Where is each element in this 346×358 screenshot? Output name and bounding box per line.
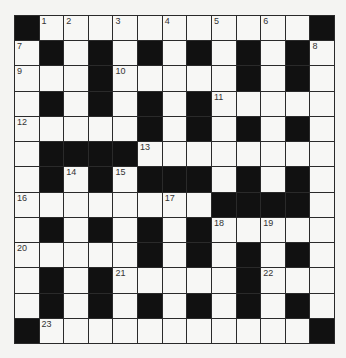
- answer-cell[interactable]: [64, 66, 88, 90]
- answer-cell[interactable]: 20: [15, 243, 39, 267]
- answer-cell[interactable]: [187, 16, 211, 40]
- answer-cell[interactable]: [163, 243, 187, 267]
- answer-cell[interactable]: [261, 142, 285, 166]
- answer-cell[interactable]: [163, 218, 187, 242]
- answer-cell[interactable]: [310, 66, 334, 90]
- answer-cell[interactable]: [286, 16, 310, 40]
- answer-cell[interactable]: 17: [163, 193, 187, 217]
- answer-cell[interactable]: [261, 294, 285, 318]
- answer-cell[interactable]: [237, 16, 261, 40]
- answer-cell[interactable]: [138, 193, 162, 217]
- answer-cell[interactable]: [89, 117, 113, 141]
- answer-cell[interactable]: 7: [15, 41, 39, 65]
- answer-cell[interactable]: [138, 16, 162, 40]
- answer-cell[interactable]: [261, 66, 285, 90]
- answer-cell[interactable]: [113, 92, 137, 116]
- answer-cell[interactable]: [15, 268, 39, 292]
- answer-cell[interactable]: 3: [113, 16, 137, 40]
- answer-cell[interactable]: [212, 66, 236, 90]
- answer-cell[interactable]: [212, 167, 236, 191]
- answer-cell[interactable]: [113, 294, 137, 318]
- answer-cell[interactable]: 12: [15, 117, 39, 141]
- answer-cell[interactable]: 2: [64, 16, 88, 40]
- answer-cell[interactable]: [286, 319, 310, 343]
- answer-cell[interactable]: [138, 268, 162, 292]
- answer-cell[interactable]: [310, 294, 334, 318]
- answer-cell[interactable]: 14: [64, 167, 88, 191]
- answer-cell[interactable]: [64, 193, 88, 217]
- answer-cell[interactable]: [138, 66, 162, 90]
- answer-cell[interactable]: [113, 243, 137, 267]
- answer-cell[interactable]: [187, 268, 211, 292]
- answer-cell[interactable]: [212, 294, 236, 318]
- answer-cell[interactable]: [261, 167, 285, 191]
- answer-cell[interactable]: [310, 218, 334, 242]
- answer-cell[interactable]: [212, 142, 236, 166]
- answer-cell[interactable]: [64, 319, 88, 343]
- answer-cell[interactable]: [310, 92, 334, 116]
- answer-cell[interactable]: [64, 117, 88, 141]
- answer-cell[interactable]: 5: [212, 16, 236, 40]
- answer-cell[interactable]: [15, 167, 39, 191]
- answer-cell[interactable]: [261, 243, 285, 267]
- answer-cell[interactable]: [113, 41, 137, 65]
- answer-cell[interactable]: [64, 294, 88, 318]
- answer-cell[interactable]: 10: [113, 66, 137, 90]
- answer-cell[interactable]: [138, 319, 162, 343]
- answer-cell[interactable]: [212, 117, 236, 141]
- answer-cell[interactable]: [89, 243, 113, 267]
- answer-cell[interactable]: [310, 243, 334, 267]
- answer-cell[interactable]: [64, 268, 88, 292]
- answer-cell[interactable]: [310, 268, 334, 292]
- answer-cell[interactable]: [163, 41, 187, 65]
- answer-cell[interactable]: 9: [15, 66, 39, 90]
- answer-cell[interactable]: [113, 218, 137, 242]
- answer-cell[interactable]: [113, 319, 137, 343]
- answer-cell[interactable]: [40, 117, 64, 141]
- answer-cell[interactable]: [237, 92, 261, 116]
- answer-cell[interactable]: [310, 117, 334, 141]
- answer-cell[interactable]: 18: [212, 218, 236, 242]
- answer-cell[interactable]: [261, 117, 285, 141]
- answer-cell[interactable]: [310, 193, 334, 217]
- answer-cell[interactable]: 8: [310, 41, 334, 65]
- answer-cell[interactable]: [15, 218, 39, 242]
- answer-cell[interactable]: [286, 218, 310, 242]
- answer-cell[interactable]: [163, 117, 187, 141]
- answer-cell[interactable]: [113, 193, 137, 217]
- answer-cell[interactable]: [163, 319, 187, 343]
- answer-cell[interactable]: [310, 142, 334, 166]
- answer-cell[interactable]: [187, 142, 211, 166]
- answer-cell[interactable]: [15, 142, 39, 166]
- answer-cell[interactable]: 22: [261, 268, 285, 292]
- answer-cell[interactable]: [40, 193, 64, 217]
- answer-cell[interactable]: [163, 294, 187, 318]
- answer-cell[interactable]: [163, 92, 187, 116]
- answer-cell[interactable]: [237, 142, 261, 166]
- answer-cell[interactable]: 19: [261, 218, 285, 242]
- answer-cell[interactable]: 1: [40, 16, 64, 40]
- answer-cell[interactable]: [261, 41, 285, 65]
- answer-cell[interactable]: [237, 218, 261, 242]
- answer-cell[interactable]: 13: [138, 142, 162, 166]
- answer-cell[interactable]: [286, 92, 310, 116]
- answer-cell[interactable]: [89, 193, 113, 217]
- answer-cell[interactable]: [64, 41, 88, 65]
- answer-cell[interactable]: [15, 92, 39, 116]
- answer-cell[interactable]: [40, 243, 64, 267]
- answer-cell[interactable]: [64, 243, 88, 267]
- answer-cell[interactable]: [286, 142, 310, 166]
- answer-cell[interactable]: [15, 294, 39, 318]
- answer-cell[interactable]: [261, 92, 285, 116]
- answer-cell[interactable]: 11: [212, 92, 236, 116]
- answer-cell[interactable]: 21: [113, 268, 137, 292]
- answer-cell[interactable]: [212, 268, 236, 292]
- answer-cell[interactable]: [113, 117, 137, 141]
- answer-cell[interactable]: [89, 16, 113, 40]
- answer-cell[interactable]: [212, 319, 236, 343]
- answer-cell[interactable]: 6: [261, 16, 285, 40]
- answer-cell[interactable]: [89, 319, 113, 343]
- answer-cell[interactable]: [212, 41, 236, 65]
- answer-cell[interactable]: [187, 193, 211, 217]
- answer-cell[interactable]: [237, 319, 261, 343]
